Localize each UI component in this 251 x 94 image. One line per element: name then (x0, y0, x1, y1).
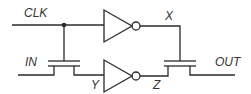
circuit-diagram: CLK IN X Y Z OUT (0, 0, 251, 94)
label-x: X (164, 9, 174, 23)
label-z: Z (152, 78, 161, 92)
label-in: IN (25, 55, 37, 69)
label-out: OUT (215, 55, 242, 69)
label-y: Y (91, 78, 100, 92)
label-clk: CLK (24, 6, 48, 20)
